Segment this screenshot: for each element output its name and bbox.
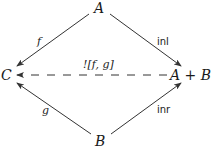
label-inr: inr <box>157 105 170 115</box>
arrow-inl <box>110 14 181 66</box>
node-a: A <box>94 1 104 15</box>
node-c: C <box>1 68 12 82</box>
label-f: f <box>37 36 41 47</box>
label-g: g <box>42 105 49 116</box>
label-copair: ![f, g] <box>82 59 115 70</box>
coproduct-diagram: A C A + B B f inl g inr ![f, g] <box>0 0 213 149</box>
arrow-inr <box>111 83 181 134</box>
label-inl: inl <box>157 37 169 47</box>
node-a-plus-b: A + B <box>170 68 211 82</box>
arrow-f <box>17 14 89 66</box>
arrow-g <box>17 83 91 134</box>
node-b: B <box>95 134 105 148</box>
